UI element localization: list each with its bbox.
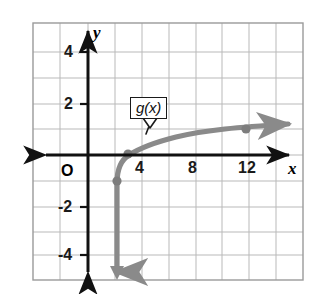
x-tick-label-12: 12 [238, 160, 256, 176]
y-tick-label-4: 4 [64, 44, 73, 60]
coordinate-plane [0, 0, 317, 294]
x-tick-label-4: 4 [135, 160, 144, 176]
curve-point-x12 [241, 124, 250, 133]
x-axis-label: x [288, 160, 297, 177]
curve-point-lower [112, 176, 121, 185]
y-tick-label-2: 2 [64, 96, 73, 112]
y-tick-label-neg4: -4 [58, 247, 72, 263]
grid-background [33, 23, 303, 280]
x-tick-label-8: 8 [188, 160, 197, 176]
y-tick-label-neg2: -2 [58, 199, 72, 215]
origin-label: O [61, 163, 73, 179]
graph-figure: 4 2 -2 -4 4 8 12 y x O g(x) [0, 0, 317, 294]
curve-label-callout: g(x) [130, 97, 167, 119]
y-axis-label: y [93, 24, 101, 41]
